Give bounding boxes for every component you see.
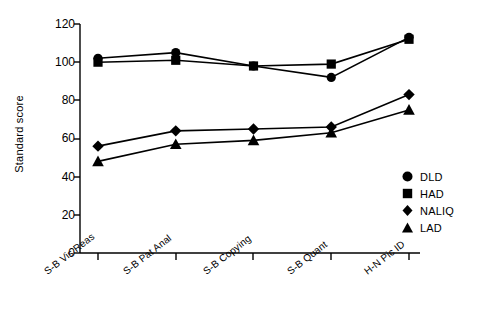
plot-area (0, 0, 501, 323)
triangle-marker-icon (400, 221, 414, 235)
data-point-marker (327, 73, 336, 82)
data-point-marker (92, 140, 103, 151)
data-point-marker (248, 123, 259, 134)
data-point-marker (93, 58, 102, 67)
data-point-marker (403, 89, 414, 100)
legend-item-had: HAD (400, 185, 454, 202)
legend-item-naliq: NALIQ (400, 202, 454, 219)
data-point-marker (327, 59, 336, 68)
legend-label-dld: DLD (420, 171, 443, 183)
data-point-marker (171, 56, 180, 65)
legend-label-lad: LAD (420, 222, 442, 234)
circle-marker-icon (400, 170, 414, 184)
data-point-marker (404, 35, 413, 44)
series-line-dld (98, 37, 409, 77)
legend-item-dld: DLD (400, 168, 454, 185)
line-chart: Standard score 120 100 80 60 40 20 0 S-B… (0, 0, 501, 323)
data-point-marker (249, 61, 258, 70)
legend-item-lad: LAD (400, 219, 454, 236)
square-marker-icon (400, 187, 414, 201)
data-point-marker (170, 125, 181, 136)
legend-label-had: HAD (420, 188, 444, 200)
diamond-marker-icon (400, 204, 414, 218)
legend-label-naliq: NALIQ (420, 205, 454, 217)
data-point-marker (403, 104, 415, 115)
legend: DLD HAD NALIQ LAD (400, 168, 454, 236)
series-layer (92, 33, 415, 166)
